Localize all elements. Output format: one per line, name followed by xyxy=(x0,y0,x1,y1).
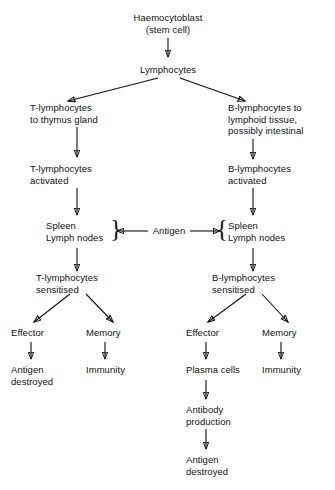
node-t-lymphocytes-sensitised: T-lymphocytes sensitised xyxy=(36,272,136,295)
node-b-lymphocytes-lymphoid: B-lymphocytes to lymphoid tissue, possib… xyxy=(228,102,333,137)
node-t-lymphocytes-activated: T-lymphocytes activated xyxy=(30,163,130,186)
node-t-effector: Effector xyxy=(11,327,71,339)
node-b-effector: Effector xyxy=(186,327,246,339)
node-t-immunity: Immunity xyxy=(86,364,156,376)
edge-lymphocytes-to-b xyxy=(180,78,245,101)
node-b-immunity: Immunity xyxy=(262,364,332,376)
node-t-lymphocytes-thymus: T-lymphocytes to thymus gland xyxy=(30,102,130,125)
node-t-antigen-destroyed: Antigen destroyed xyxy=(11,364,81,387)
node-t-spleen-lymph-nodes: Spleen Lymph nodes xyxy=(46,220,116,243)
node-plasma-cells: Plasma cells xyxy=(186,364,266,376)
edge-b-sensitised-to-effector xyxy=(208,294,246,322)
node-b-spleen-lymph-nodes: Spleen Lymph nodes xyxy=(228,220,308,243)
node-haemocytoblast: Haemocytoblast (stem cell) xyxy=(108,12,228,35)
edge-t-sensitised-to-memory xyxy=(86,294,113,322)
flowchart-diagram: } { Haemocytoblast (stem cell) Lymphocyt… xyxy=(0,0,335,490)
node-t-memory: Memory xyxy=(86,327,146,339)
edge-t-sensitised-to-effector xyxy=(34,294,70,322)
node-antibody-production: Antibody production xyxy=(186,404,266,427)
node-b-lymphocytes-activated: B-lymphocytes activated xyxy=(228,163,328,186)
node-b-memory: Memory xyxy=(262,327,322,339)
node-lymphocytes: Lymphocytes xyxy=(118,64,218,76)
brace-right-spleen-group: { xyxy=(216,216,228,241)
node-b-lymphocytes-sensitised: B-lymphocytes sensitised xyxy=(212,272,312,295)
edge-lymphocytes-to-t xyxy=(68,78,158,101)
node-antigen: Antigen xyxy=(138,225,200,237)
node-b-antigen-destroyed: Antigen destroyed xyxy=(186,454,256,477)
edge-b-sensitised-to-memory xyxy=(262,294,288,322)
